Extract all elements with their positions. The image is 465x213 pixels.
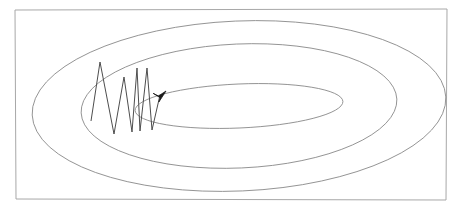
- figure-canvas: [0, 0, 465, 213]
- contour-descent-diagram: [0, 0, 465, 213]
- canvas-background: [0, 0, 465, 213]
